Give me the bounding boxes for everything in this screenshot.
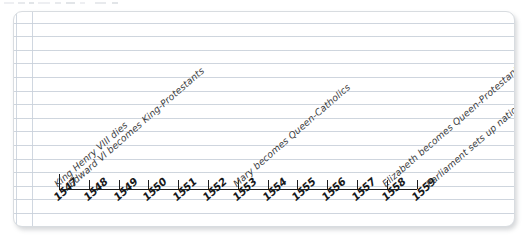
event-label-1553-2: Mary becomes Queen-Catholics: [231, 81, 353, 189]
scan-speck: [29, 2, 34, 4]
scan-speck: [18, 2, 25, 4]
scan-speck: [4, 2, 14, 4]
event-label-1547-0: King Henry VIII dies: [52, 119, 130, 189]
notebook-paper-sheet: 1547154815491550155115521553155415551556…: [13, 11, 515, 227]
scan-speck: [38, 2, 50, 4]
scan-speck: [55, 2, 61, 4]
scan-artifacts: [0, 0, 531, 10]
scan-speck: [112, 2, 118, 4]
scan-speck: [95, 2, 106, 4]
scan-speck: [66, 2, 75, 4]
event-label-1547-1: Edward VI becomes King-Protestants: [66, 65, 206, 189]
timeline-figure: 1547154815491550155115521553155415551556…: [14, 12, 514, 226]
scan-speck: [80, 2, 85, 4]
